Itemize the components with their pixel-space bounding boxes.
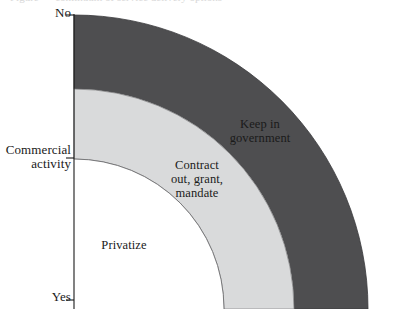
axis-label-no: No xyxy=(55,6,71,20)
privatization-arc-figure: Figure — continuum of service delivery o… xyxy=(0,0,419,309)
axis-label-yes: Yes xyxy=(52,290,71,304)
band-label-keep-in-government: Keep in government xyxy=(212,117,308,145)
axis-label-commercial-activity: Commercial activity xyxy=(6,143,71,171)
band-label-contract-out-grant-mandate: Contract out, grant, mandate xyxy=(150,158,244,200)
band-label-privatize: Privatize xyxy=(78,238,170,252)
